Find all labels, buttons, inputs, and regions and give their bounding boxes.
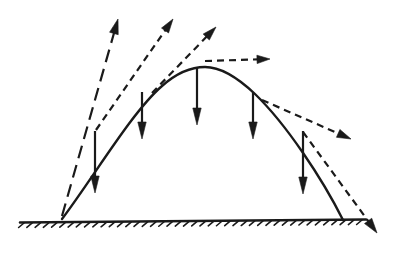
physics-figure (0, 0, 396, 253)
figure-canvas (0, 0, 396, 253)
figure-background (0, 0, 396, 253)
